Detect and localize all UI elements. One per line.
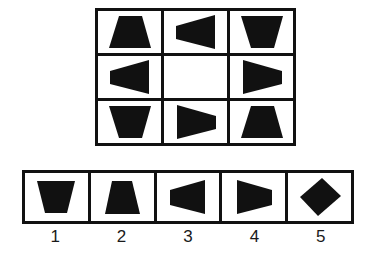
- option-labels: 1 2 3 4 5: [22, 228, 354, 258]
- option-4[interactable]: [222, 173, 285, 221]
- trapezoid-up-icon: [104, 12, 156, 52]
- matrix-cell-row2-col3[interactable]: [230, 56, 293, 98]
- trapezoid-up-icon: [236, 102, 288, 142]
- option-1[interactable]: [25, 173, 88, 221]
- matrix-cell-row1-col2[interactable]: [164, 11, 227, 53]
- matrix-grid: [98, 11, 293, 143]
- option-3[interactable]: [157, 173, 220, 221]
- options-panel: [22, 170, 354, 224]
- trapezoid-right-icon: [230, 177, 278, 217]
- matrix-panel: [95, 8, 296, 146]
- options-row: [25, 173, 351, 221]
- option-label-5: 5: [288, 228, 354, 258]
- trapezoid-left-icon: [164, 177, 212, 217]
- option-2[interactable]: [91, 173, 154, 221]
- trapezoid-right-icon: [170, 102, 222, 142]
- matrix-cell-row3-col2[interactable]: [164, 101, 227, 143]
- matrix-cell-row3-col1[interactable]: [98, 101, 161, 143]
- option-label-2: 2: [88, 228, 154, 258]
- matrix-cell-row3-col3[interactable]: [230, 101, 293, 143]
- diamond-icon: [296, 176, 344, 218]
- trapezoid-down-icon: [32, 177, 80, 217]
- trapezoid-left-icon: [170, 12, 222, 52]
- option-label-3: 3: [155, 228, 221, 258]
- trapezoid-down-icon: [104, 102, 156, 142]
- matrix-cell-row2-col1[interactable]: [98, 56, 161, 98]
- option-label-4: 4: [221, 228, 287, 258]
- trapezoid-down-icon: [236, 12, 288, 52]
- option-5[interactable]: [288, 173, 351, 221]
- option-label-1: 1: [22, 228, 88, 258]
- matrix-cell-row1-col1[interactable]: [98, 11, 161, 53]
- trapezoid-right-icon: [236, 57, 288, 97]
- trapezoid-left-icon: [104, 57, 156, 97]
- trapezoid-up-icon: [98, 177, 146, 217]
- matrix-cell-row1-col3[interactable]: [230, 11, 293, 53]
- matrix-cell-row2-col2-empty[interactable]: [164, 56, 227, 98]
